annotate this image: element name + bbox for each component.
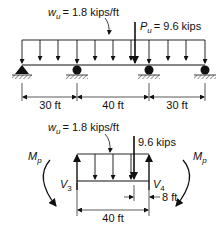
fbd-distributed-load-label: wu= 1.8 kips/ft — [48, 121, 119, 136]
pin-support-icon — [12, 65, 32, 79]
fbd-point-load-label: 9.6 kips — [138, 136, 176, 148]
span-label: 30 ft — [39, 99, 60, 111]
beam-diagram: wu= 1.8 kips/ft Pu= 9.6 kips — [0, 0, 223, 227]
point-load-label: Pu= 9.6 kips — [140, 20, 202, 35]
span-dimensions: 30 ft 40 ft 30 ft — [22, 83, 205, 111]
leader-arrow-icon — [105, 18, 109, 34]
span-label: 40 ft — [102, 99, 123, 111]
free-body-diagram: wu= 1.8 kips/ft 9.6 kips V3 V4 Mp Mp — [28, 121, 207, 224]
span-length-label: 40 ft — [102, 212, 123, 224]
moment-left-arrow-icon — [43, 160, 56, 206]
span-label: 30 ft — [166, 99, 187, 111]
roller-support-icon — [66, 66, 88, 80]
roller-support-icon — [194, 66, 216, 80]
shear-v3-label: V3 — [60, 178, 72, 193]
leader-arrow-icon — [105, 134, 110, 152]
moment-left-label: Mp — [28, 150, 42, 165]
roller-support-icon — [138, 66, 160, 80]
moment-right-arrow-icon — [176, 160, 190, 206]
distributed-load-label: wu= 1.8 kips/ft — [48, 6, 119, 21]
moment-right-label: Mp — [193, 150, 207, 165]
continuous-beam: wu= 1.8 kips/ft Pu= 9.6 kips — [12, 6, 216, 111]
offset-dimension-label: 8 ft — [162, 191, 177, 203]
